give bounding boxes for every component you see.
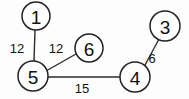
edge-weight-1-5: 12: [10, 41, 24, 56]
node-4[interactable]: 4: [120, 62, 150, 92]
node-1[interactable]: 1: [22, 2, 50, 30]
node-5[interactable]: 5: [18, 61, 48, 91]
nodes-layer: 1 6 3 5 4: [18, 2, 180, 92]
graph-canvas: 1 6 3 5 4 12 12 15 6: [0, 0, 189, 99]
graph-figure: 1 6 3 5 4 12 12 15 6: [0, 0, 189, 99]
node-1-label: 1: [31, 7, 42, 28]
node-6-label: 6: [84, 39, 95, 60]
node-3[interactable]: 3: [150, 11, 180, 41]
edge-5-6: [46, 54, 76, 71]
edge-weight-5-4: 15: [75, 81, 89, 96]
edge-weight-4-3: 6: [148, 51, 155, 66]
edge-1-5: [34, 30, 35, 61]
node-6[interactable]: 6: [75, 34, 103, 62]
node-3-label: 3: [160, 17, 171, 38]
edge-weight-5-6: 12: [49, 41, 63, 56]
node-4-label: 4: [130, 68, 141, 89]
node-5-label: 5: [28, 67, 39, 88]
